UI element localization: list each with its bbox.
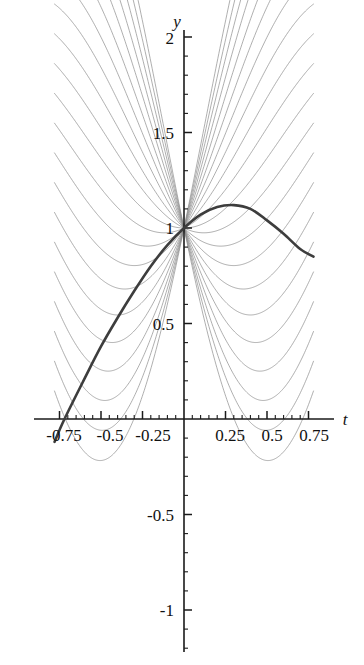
plot-canvas: y t 2 1.5 1 0.5 -0.5 -1 -0.75 -0.5 -0.25… <box>0 0 364 665</box>
y-tick-label-minus-1: -1 <box>160 601 174 620</box>
axes-group <box>34 30 334 652</box>
axis-tick-labels: y t 2 1.5 1 0.5 -0.5 -1 -0.75 -0.5 -0.25… <box>46 12 348 620</box>
y-tick-label-minus-0-5: -0.5 <box>147 506 174 525</box>
y-tick-label-1-5: 1.5 <box>153 124 174 143</box>
y-axis-ticks <box>184 37 192 648</box>
y-tick-label-2: 2 <box>166 29 175 48</box>
x-tick-label-0-75: 0.75 <box>299 426 329 445</box>
x-axis-label: t <box>343 410 349 429</box>
plot-figure: y t 2 1.5 1 0.5 -0.5 -1 -0.75 -0.5 -0.25… <box>0 0 364 665</box>
x-tick-label-minus-0-25: -0.25 <box>135 426 170 445</box>
y-tick-label-1: 1 <box>166 219 175 238</box>
x-tick-label-0-25: 0.25 <box>215 426 245 445</box>
x-tick-label-minus-0-5: -0.5 <box>97 426 124 445</box>
x-tick-label-minus-0-75: -0.75 <box>46 426 81 445</box>
y-tick-label-0-5: 0.5 <box>153 315 174 334</box>
x-tick-label-0-5: 0.5 <box>261 426 282 445</box>
